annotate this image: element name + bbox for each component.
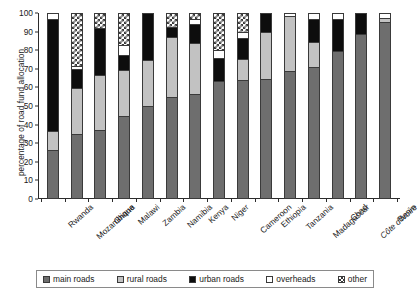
bar-segment-overheads	[119, 46, 129, 56]
bar-segment-urban-roads	[143, 14, 153, 61]
stacked-bar[interactable]	[332, 13, 344, 199]
bar-segment-other	[95, 14, 105, 29]
bar-slot	[112, 13, 136, 199]
bar-segment-rural-roads	[285, 17, 295, 73]
bar-segment-main-roads	[261, 80, 271, 198]
bar-segment-other	[72, 14, 82, 67]
stacked-bar[interactable]	[142, 13, 154, 199]
bar-slot	[278, 13, 302, 199]
bar-segment-rural-roads	[72, 89, 82, 135]
bar-segment-main-roads	[214, 82, 224, 198]
bar-segment-rural-roads	[167, 38, 177, 99]
bar-segment-urban-roads	[95, 29, 105, 75]
x-axis-label: Zambia	[160, 202, 187, 228]
stacked-bar[interactable]	[213, 13, 225, 199]
bar-segment-rural-roads	[119, 71, 129, 117]
bar-segment-urban-roads	[119, 56, 129, 71]
bar-segment-main-roads	[356, 35, 366, 198]
stacked-bar[interactable]	[71, 13, 83, 199]
legend-swatch-other	[338, 276, 345, 283]
stacked-bar[interactable]	[260, 13, 272, 199]
bar-segment-rural-roads	[190, 44, 200, 95]
bar-segment-main-roads	[72, 135, 82, 198]
legend-item-rural[interactable]: rural roads	[117, 274, 167, 284]
legend-label: other	[348, 274, 367, 284]
bar-slot	[255, 13, 279, 199]
bar-slot	[136, 13, 160, 199]
bar-segment-urban-roads	[261, 14, 271, 33]
stacked-bar[interactable]	[94, 13, 106, 199]
bar-segment-other	[167, 14, 177, 28]
y-axis-tick-label: 10	[0, 175, 38, 185]
bar-slot	[373, 13, 397, 199]
legend-label: urban roads	[199, 274, 244, 284]
bar-segment-main-roads	[95, 131, 105, 198]
bar-segment-other	[238, 14, 248, 33]
bars-container	[38, 13, 400, 199]
bar-segment-urban-roads	[190, 25, 200, 44]
legend-item-other[interactable]: other	[338, 274, 367, 284]
stacked-bar[interactable]	[237, 13, 249, 199]
bar-segment-overheads	[214, 51, 224, 59]
stacked-bar[interactable]	[355, 13, 367, 199]
stacked-bar[interactable]	[118, 13, 130, 199]
y-axis-tick-label: 30	[0, 138, 38, 148]
bar-segment-urban-roads	[333, 20, 343, 52]
legend-swatch-rural	[117, 276, 124, 283]
y-axis-tick-label: 50	[0, 101, 38, 111]
stacked-bar[interactable]	[284, 13, 296, 199]
bar-segment-other	[119, 14, 129, 46]
bar-segment-urban-roads	[48, 20, 58, 131]
legend-item-main[interactable]: main roads	[43, 274, 94, 284]
bar-slot	[65, 13, 89, 199]
x-axis-label: Niger	[229, 202, 250, 223]
bar-slot	[183, 13, 207, 199]
bar-segment-rural-roads	[95, 76, 105, 131]
bar-slot	[160, 13, 184, 199]
y-axis-tick-label: 70	[0, 64, 38, 74]
stacked-bar[interactable]	[308, 13, 320, 199]
y-axis-tick-label: 60	[0, 82, 38, 92]
bar-segment-main-roads	[48, 151, 58, 198]
legend-label: main roads	[53, 274, 94, 284]
bar-segment-main-roads	[238, 81, 248, 198]
legend-item-overheads[interactable]: overheads	[266, 274, 315, 284]
bar-segment-main-roads	[190, 95, 200, 198]
y-axis-tick-label: 80	[0, 45, 38, 55]
x-axis-label: Rwanda	[66, 202, 95, 230]
legend-label: overheads	[276, 274, 315, 284]
y-axis-tick-label: 0	[0, 194, 38, 204]
legend-swatch-overheads	[266, 276, 273, 283]
y-axis-tick-label: 90	[0, 27, 38, 37]
y-axis-tick-label: 100	[0, 8, 38, 18]
bar-segment-urban-roads	[356, 14, 366, 35]
bar-segment-main-roads	[119, 117, 129, 198]
stacked-bar[interactable]	[189, 13, 201, 199]
x-axis-label: Ghana	[112, 202, 137, 226]
legend-swatch-urban	[189, 276, 196, 283]
bar-slot	[207, 13, 231, 199]
stacked-bar[interactable]	[379, 13, 391, 199]
bar-slot	[88, 13, 112, 199]
bar-segment-rural-roads	[309, 43, 319, 68]
bar-segment-main-roads	[309, 68, 319, 198]
bar-segment-urban-roads	[214, 59, 224, 82]
plot-area: 0102030405060708090100	[38, 13, 400, 199]
bar-slot	[231, 13, 255, 199]
bar-segment-other	[214, 14, 224, 51]
bar-slot	[41, 13, 65, 199]
chart-legend: main roadsrural roadsurban roadsoverhead…	[36, 270, 374, 288]
stacked-bar[interactable]	[47, 13, 59, 199]
bar-segment-rural-roads	[238, 60, 248, 81]
legend-item-urban[interactable]: urban roads	[189, 274, 244, 284]
bar-segment-main-roads	[143, 107, 153, 198]
bar-segment-rural-roads	[261, 33, 271, 80]
bar-slot	[326, 13, 350, 199]
bar-segment-main-roads	[285, 72, 295, 198]
bar-slot	[302, 13, 326, 199]
stacked-bar[interactable]	[166, 13, 178, 199]
bar-slot	[350, 13, 374, 199]
bar-segment-rural-roads	[143, 61, 153, 108]
bar-segment-urban-roads	[238, 39, 248, 60]
